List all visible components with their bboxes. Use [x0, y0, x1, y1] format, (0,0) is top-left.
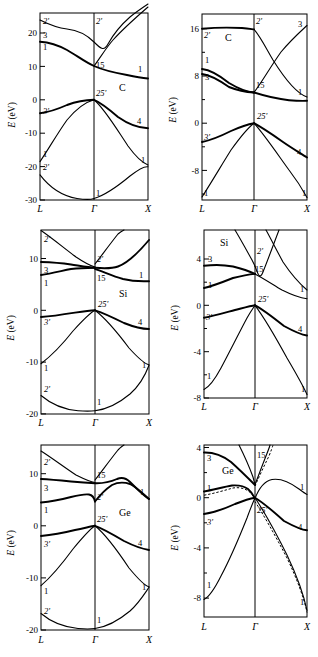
svg-text:2': 2' — [44, 606, 50, 616]
material-label-si: Si — [119, 288, 128, 299]
svg-text:2': 2' — [44, 234, 50, 244]
y-ticks: 16 8 0 -8 — [190, 24, 207, 194]
y-axis-title-c-right: E (eV) — [168, 97, 179, 124]
y-axis-title-si-right: E (eV) — [170, 305, 181, 332]
svg-text:2': 2' — [43, 162, 49, 172]
svg-text:0: 0 — [197, 493, 202, 503]
svg-text:2': 2' — [44, 457, 50, 467]
x-axis-labels: L Γ X — [36, 203, 152, 214]
svg-text:1: 1 — [207, 580, 211, 590]
y-axis-title-c-left: E (eV) — [7, 102, 18, 129]
svg-text:1: 1 — [207, 483, 211, 493]
svg-text:X: X — [303, 621, 311, 632]
y-ticks: 10 0 -10 -20 — [26, 254, 46, 419]
svg-text:X: X — [145, 417, 153, 428]
panel-ge-right: E (eV) 4 0 -4 -8 3 1 15 25' 1 3' 4 1 1 G… — [159, 433, 318, 657]
svg-text:25': 25' — [98, 299, 109, 309]
svg-text:25': 25' — [258, 294, 269, 304]
svg-text:L: L — [36, 203, 43, 214]
svg-text:1: 1 — [141, 155, 145, 165]
svg-text:1: 1 — [142, 360, 146, 370]
svg-text:15: 15 — [96, 60, 105, 70]
svg-text:Γ: Γ — [250, 203, 257, 214]
svg-text:15: 15 — [97, 273, 106, 283]
x-axis-labels: L Γ X — [200, 401, 311, 412]
svg-text:1: 1 — [205, 55, 209, 65]
material-label-ge: Ge — [119, 507, 131, 518]
svg-text:Γ: Γ — [90, 203, 97, 214]
svg-text:-10: -10 — [26, 357, 38, 367]
svg-text:4: 4 — [298, 324, 303, 334]
svg-text:1: 1 — [43, 42, 47, 52]
svg-text:Γ: Γ — [251, 401, 258, 412]
svg-text:1: 1 — [207, 371, 211, 381]
svg-text:E (eV): E (eV) — [6, 530, 17, 557]
svg-text:4: 4 — [197, 443, 202, 453]
svg-text:3': 3' — [43, 317, 50, 327]
svg-text:4: 4 — [137, 116, 142, 126]
svg-text:16: 16 — [190, 24, 200, 34]
svg-text:-30: -30 — [25, 195, 37, 205]
svg-text:1: 1 — [43, 149, 47, 159]
svg-text:15: 15 — [97, 470, 106, 480]
svg-text:0: 0 — [34, 521, 39, 531]
svg-text:2': 2' — [96, 16, 102, 26]
svg-text:2': 2' — [43, 16, 49, 26]
svg-text:X: X — [145, 634, 153, 645]
svg-text:X: X — [144, 203, 152, 214]
panel-si-right: E (eV) 4 0 -4 -8 3 1 2' 15 1 3' 25' 4 1 … — [159, 218, 318, 433]
svg-text:25': 25' — [97, 514, 108, 524]
y-axis-title-si-left: E (eV) — [6, 315, 17, 342]
svg-text:1: 1 — [97, 615, 101, 625]
svg-text:3: 3 — [207, 453, 211, 463]
svg-text:2': 2' — [256, 16, 262, 26]
svg-text:4: 4 — [297, 147, 302, 157]
svg-text:Γ: Γ — [91, 634, 98, 645]
svg-text:3: 3 — [44, 483, 48, 493]
svg-text:1: 1 — [44, 278, 48, 288]
svg-text:1: 1 — [44, 363, 48, 373]
svg-text:L: L — [200, 401, 207, 412]
chart-ge-left: E (eV) 10 0 -10 -20 2' 3 1 15 2' 1 25' 3… — [0, 433, 159, 657]
y-axis-title-ge-left: E (eV) — [6, 530, 17, 557]
svg-text:3': 3' — [205, 312, 212, 322]
svg-text:15: 15 — [255, 264, 264, 274]
svg-text:10: 10 — [29, 469, 39, 479]
svg-text:4: 4 — [138, 538, 143, 548]
svg-text:4: 4 — [197, 254, 202, 264]
svg-text:1: 1 — [96, 188, 100, 198]
svg-text:3: 3 — [298, 19, 302, 29]
svg-text:0: 0 — [34, 306, 39, 316]
svg-text:1: 1 — [140, 487, 144, 497]
svg-text:L: L — [37, 417, 44, 428]
x-axis-labels: L Γ X — [198, 203, 311, 214]
svg-text:1: 1 — [208, 280, 212, 290]
svg-text:3': 3' — [206, 517, 213, 527]
svg-text:25': 25' — [96, 88, 107, 98]
svg-text:20: 20 — [28, 28, 38, 38]
svg-text:1: 1 — [300, 284, 304, 294]
svg-text:1: 1 — [44, 505, 48, 515]
svg-text:E (eV): E (eV) — [170, 525, 181, 552]
svg-text:3: 3 — [43, 30, 47, 40]
material-label-c: C — [225, 32, 232, 43]
svg-text:L: L — [200, 621, 207, 632]
svg-text:1: 1 — [142, 582, 146, 592]
svg-text:1: 1 — [302, 188, 306, 198]
svg-text:25': 25' — [257, 505, 268, 515]
svg-text:E (eV): E (eV) — [7, 102, 18, 129]
material-label-c: C — [119, 82, 126, 93]
svg-text:Γ: Γ — [91, 417, 98, 428]
svg-text:3': 3' — [43, 539, 50, 549]
svg-text:1: 1 — [301, 384, 305, 394]
y-ticks: 10 0 -10 -20 — [26, 469, 46, 635]
y-ticks: 20 10 0 -10 -20 -30 — [25, 28, 45, 205]
svg-text:E (eV): E (eV) — [170, 305, 181, 332]
svg-text:3: 3 — [44, 265, 48, 275]
svg-text:-10: -10 — [26, 573, 38, 583]
svg-text:L: L — [198, 203, 205, 214]
svg-text:0: 0 — [33, 95, 38, 105]
svg-text:1: 1 — [97, 397, 101, 407]
svg-text:-20: -20 — [25, 162, 37, 172]
chart-si-right: E (eV) 4 0 -4 -8 3 1 2' 15 1 3' 25' 4 1 … — [159, 218, 318, 433]
